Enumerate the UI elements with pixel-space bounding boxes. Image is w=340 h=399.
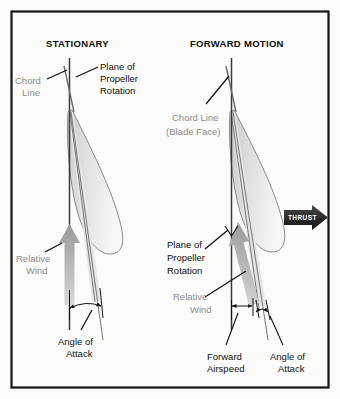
panel-title-stationary: STATIONARY xyxy=(46,38,109,49)
chord-line-label-left-line1: Chord xyxy=(15,75,41,86)
relative-wind-label-right-line2: Wind xyxy=(190,304,212,315)
diagram-canvas: STATIONARY Chord Li xyxy=(0,0,340,399)
relative-wind-label-left-line1: Relative xyxy=(16,253,50,264)
plane-of-rotation-label-left-line2: Propeller xyxy=(100,73,138,84)
angle-of-attack-label-left-line1: Angle of xyxy=(58,336,93,347)
relative-wind-label-left-line2: Wind xyxy=(26,265,48,276)
plane-of-rotation-label-left-line1: Plane of xyxy=(100,61,135,72)
chord-line-label-right-line2: (Blade Face) xyxy=(166,126,220,137)
figure-background xyxy=(0,0,340,399)
angle-of-attack-label-left-line2: Attack xyxy=(66,348,93,359)
propeller-angle-of-attack-figure: STATIONARY Chord Li xyxy=(0,0,340,399)
plane-of-rotation-label-left-line3: Rotation xyxy=(100,85,135,96)
chord-line-label-right-line1: Chord Line xyxy=(172,112,218,123)
plane-of-rotation-label-right-line2: Propeller xyxy=(167,252,205,263)
angle-of-attack-label-right-line1: Angle of xyxy=(270,351,305,362)
relative-wind-label-right-line1: Relative xyxy=(173,291,207,302)
thrust-label: THRUST xyxy=(288,214,317,221)
plane-of-rotation-label-right-line1: Plane of xyxy=(167,239,202,250)
chord-line-label-left-line2: Line xyxy=(22,87,40,98)
angle-of-attack-label-right-line2: Attack xyxy=(278,363,305,374)
forward-airspeed-label-line1: Forward xyxy=(207,351,242,362)
forward-airspeed-label-line2: Airspeed xyxy=(207,363,245,374)
panel-title-forward-motion: FORWARD MOTION xyxy=(190,38,284,49)
plane-of-rotation-label-right-line3: Rotation xyxy=(167,265,202,276)
